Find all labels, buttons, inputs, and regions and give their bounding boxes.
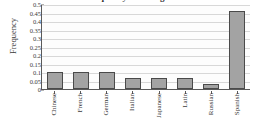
- bar: [203, 84, 219, 89]
- bar-slot: [146, 5, 172, 89]
- y-tick-label: 0.3: [33, 36, 41, 43]
- plot-area: [41, 5, 250, 90]
- x-tick-slot: Chinese: [41, 91, 67, 132]
- x-tick-label: Latin: [181, 93, 188, 108]
- bar: [47, 72, 63, 89]
- x-tick-slot: French: [67, 91, 93, 132]
- bar: [99, 72, 115, 89]
- bar-slot: [94, 5, 120, 89]
- x-tick-label: German: [103, 93, 110, 116]
- x-tick-slot: Russian: [198, 91, 224, 132]
- x-tick-slot: Japanese: [146, 91, 172, 132]
- bar-slot: [224, 5, 250, 89]
- x-tick-label: Italian: [129, 93, 136, 111]
- bar: [229, 11, 245, 89]
- x-axis-tick-labels: ChineseFrenchGermanItalianJapaneseLatinR…: [41, 91, 250, 132]
- y-tick-label: 0.4: [33, 19, 41, 26]
- y-tick-label: 0.5: [33, 2, 41, 9]
- x-tick-label: Chinese: [51, 93, 58, 116]
- bar: [151, 78, 167, 89]
- y-tick-label: 0.1: [33, 70, 41, 77]
- bar-series: [42, 5, 250, 89]
- bar-slot: [172, 5, 198, 89]
- bar-slot: [198, 5, 224, 89]
- bar: [125, 78, 141, 89]
- x-tick-label: Russian: [207, 93, 214, 115]
- x-tick-label: Japanese: [155, 93, 162, 118]
- x-tick-label: French: [77, 93, 84, 112]
- y-tick-label: 0.15: [30, 61, 41, 68]
- bar-slot: [120, 5, 146, 89]
- y-tick-label: 0.45: [30, 10, 41, 17]
- x-tick-slot: Italian: [119, 91, 145, 132]
- bar-chart: Relative Frequency of College Students F…: [0, 0, 256, 132]
- x-tick-label: Spanish: [233, 93, 240, 115]
- bar: [177, 78, 193, 89]
- bar: [73, 72, 89, 89]
- x-tick-slot: Latin: [172, 91, 198, 132]
- y-axis-tick-labels: 00.050.10.150.20.250.30.350.40.450.5: [17, 5, 41, 90]
- y-tick-label: 0.25: [30, 44, 41, 51]
- x-tick-slot: Spanish: [224, 91, 250, 132]
- x-tick-slot: German: [93, 91, 119, 132]
- y-tick-label: 0.35: [30, 27, 41, 34]
- bar-slot: [42, 5, 68, 89]
- y-tick-label: 0.05: [30, 78, 41, 85]
- bar-slot: [68, 5, 94, 89]
- y-tick-label: 0.2: [33, 53, 41, 60]
